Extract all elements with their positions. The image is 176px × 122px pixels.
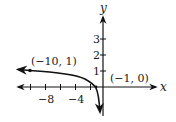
point-label-neg10-1: (−10, 1) — [31, 55, 77, 68]
y-tick-label-3: 3 — [93, 33, 100, 46]
x-axis-label: x — [160, 80, 167, 94]
y-axis-label: y — [99, 1, 107, 15]
y-tick-label-2: 2 — [93, 49, 100, 62]
y-tick-label-1: 1 — [93, 65, 100, 78]
function-graph: y x −8 −4 1 2 3 (−10, 1) (−1, 0) — [0, 0, 176, 122]
point-label-neg1-0: (−1, 0) — [110, 72, 149, 85]
point-neg10-1 — [28, 69, 32, 73]
point-neg1-0 — [95, 86, 98, 89]
function-curve — [18, 70, 100, 113]
x-tick-label-neg8: −8 — [38, 93, 54, 106]
x-tick-label-neg4: −4 — [68, 93, 84, 106]
